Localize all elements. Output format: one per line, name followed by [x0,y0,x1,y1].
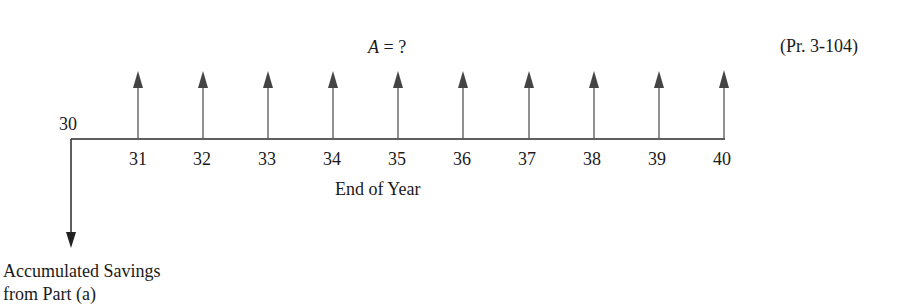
year-label: 31 [129,150,147,168]
year-label: 40 [713,150,731,168]
annuity-arrow [393,71,403,139]
up-arrowhead-icon [458,71,468,88]
annuity-arrow [328,71,338,139]
annuity-variable: A [368,37,379,57]
up-arrowhead-icon [263,71,273,88]
annuity-arrow [524,71,534,139]
annuity-arrow [589,71,599,139]
annuity-arrow [198,71,208,139]
up-arrowhead-icon [133,71,143,88]
up-arrowhead-icon [654,71,664,88]
annuity-arrow [458,71,468,139]
annuity-arrow [263,71,273,139]
annuity-arrows [133,70,729,139]
year-label: 33 [258,150,276,168]
start-year-label: 30 [59,115,77,133]
annuity-unknown: = ? [379,37,406,57]
annuity-arrow [654,71,664,139]
up-arrowhead-icon [328,71,338,88]
accumulated-savings-label-line1: Accumulated Savings [3,262,160,280]
year-label: 34 [323,150,341,168]
problem-label: (Pr. 3-104) [780,37,858,55]
annuity-arrow [133,71,143,139]
year-label: 36 [453,150,471,168]
accumulated-savings-label-line2: from Part (a) [3,285,96,303]
year-label: 32 [193,150,211,168]
annuity-arrow [719,70,729,139]
up-arrowhead-icon [393,71,403,88]
up-arrowhead-icon [198,71,208,88]
down-arrowhead-icon [66,232,76,248]
axis-label: End of Year [335,180,421,198]
up-arrowhead-icon [719,70,729,88]
up-arrowhead-icon [524,71,534,88]
year-label: 39 [648,150,666,168]
year-label: 35 [388,150,406,168]
annuity-label: A = ? [368,38,406,56]
year-label: 37 [518,150,536,168]
up-arrowhead-icon [589,71,599,88]
year-label: 38 [583,150,601,168]
